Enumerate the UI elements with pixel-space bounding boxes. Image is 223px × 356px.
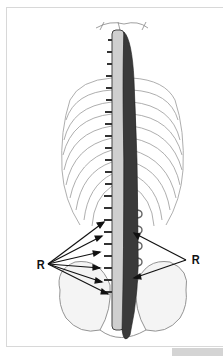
label-r-left: R [37, 258, 45, 271]
footer-strip [172, 348, 223, 356]
anatomy-illustration [0, 0, 223, 356]
skull-base [96, 22, 148, 30]
label-r-right: R [192, 253, 200, 266]
